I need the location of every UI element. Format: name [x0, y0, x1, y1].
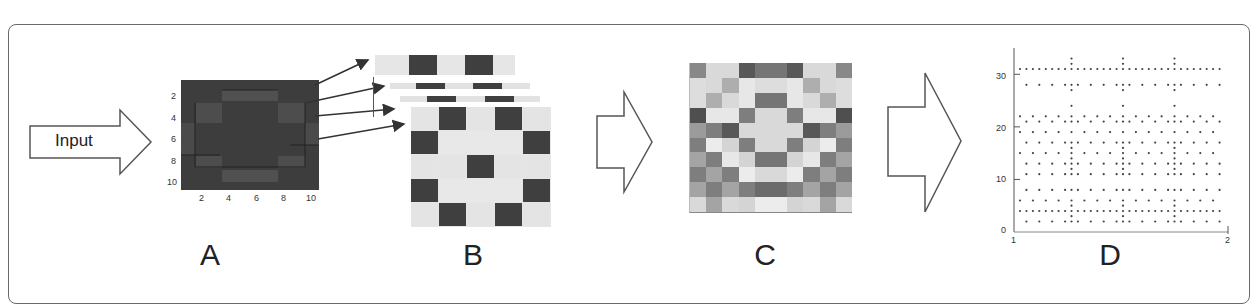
- x-tick: 1: [1011, 235, 1016, 245]
- y-tick: 20: [996, 123, 1006, 133]
- panel-label-d: D: [1090, 238, 1130, 272]
- y-tick: 10: [996, 174, 1006, 184]
- y-tick: 30: [996, 71, 1006, 81]
- x-tick: 2: [1225, 235, 1230, 245]
- y-tick: 0: [1001, 225, 1006, 235]
